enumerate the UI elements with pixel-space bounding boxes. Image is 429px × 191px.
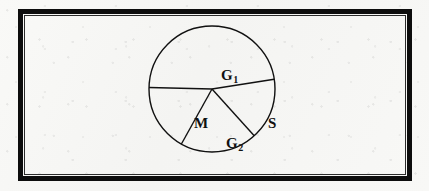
pie-slice-label-g2-text: G bbox=[226, 135, 238, 151]
pie-chart-svg bbox=[25, 16, 405, 174]
pie-slice-label-g1: G1 bbox=[221, 68, 238, 83]
figure-page: G1 M S G2 bbox=[0, 0, 429, 191]
pie-slice-label-g2-subscript: 2 bbox=[238, 142, 243, 153]
pie-slice-label-g1-subscript: 1 bbox=[233, 74, 238, 85]
pie-slice-label-g2: G2 bbox=[226, 136, 243, 151]
pie-slice-label-s: S bbox=[268, 116, 276, 131]
sector-divider-g1-m bbox=[149, 88, 212, 90]
pie-chart-figure: G1 M S G2 bbox=[25, 16, 405, 174]
sector-divider-s-g2 bbox=[212, 89, 254, 136]
pie-slice-label-m-text: M bbox=[194, 115, 208, 131]
pie-slice-label-s-text: S bbox=[268, 115, 276, 131]
pie-slice-label-m: M bbox=[194, 116, 208, 131]
pie-slice-label-g1-text: G bbox=[221, 67, 233, 83]
